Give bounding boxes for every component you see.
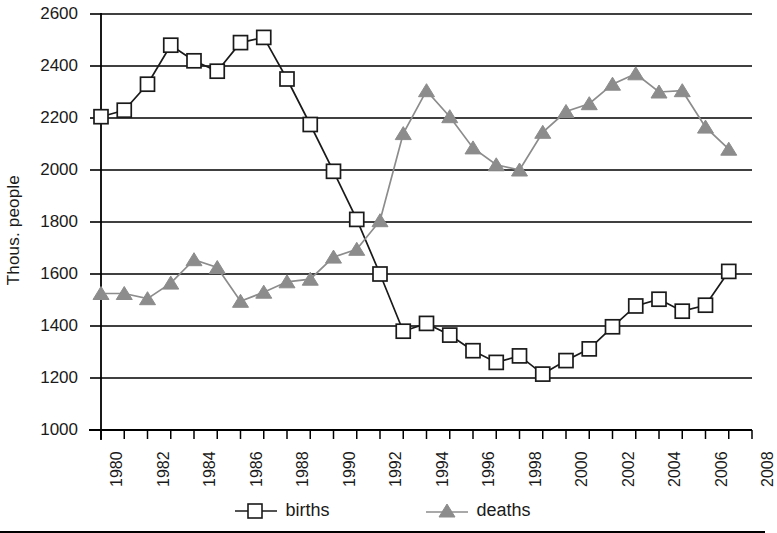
data-point-births — [675, 304, 689, 318]
data-point-births — [187, 54, 201, 68]
data-point-births — [443, 328, 457, 342]
legend-item-births[interactable]: births — [234, 500, 329, 521]
legend-label-births: births — [285, 500, 329, 521]
data-point-births — [722, 264, 736, 278]
data-point-births — [420, 316, 434, 330]
births-legend-marker-icon — [234, 502, 278, 520]
data-point-deaths — [465, 141, 481, 154]
data-point-deaths — [326, 250, 342, 263]
data-point-deaths — [558, 105, 574, 118]
data-point-births — [350, 212, 364, 226]
data-point-deaths — [395, 127, 411, 140]
data-point-births — [210, 64, 224, 78]
data-point-births — [513, 349, 527, 363]
data-point-births — [141, 77, 155, 91]
legend-item-deaths[interactable]: deaths — [425, 500, 530, 521]
data-point-births — [280, 72, 294, 86]
data-point-births — [373, 267, 387, 281]
data-point-births — [303, 118, 317, 132]
data-point-births — [94, 110, 108, 124]
data-point-births — [582, 342, 596, 356]
data-point-births — [234, 36, 248, 50]
chart-legend: births deaths — [0, 500, 765, 521]
data-point-births — [117, 103, 131, 117]
data-point-deaths — [186, 253, 202, 266]
data-point-deaths — [256, 285, 272, 298]
series-line-births — [101, 37, 729, 374]
data-point-births — [652, 292, 666, 306]
data-point-births — [396, 324, 410, 338]
data-point-births — [536, 367, 550, 381]
data-point-deaths — [419, 84, 435, 97]
data-point-births — [559, 354, 573, 368]
data-point-deaths — [209, 261, 225, 274]
legend-label-deaths: deaths — [476, 500, 530, 521]
deaths-legend-marker-icon — [425, 502, 469, 520]
data-point-deaths — [233, 294, 249, 307]
data-point-births — [699, 298, 713, 312]
series-line-deaths — [101, 74, 729, 301]
data-point-deaths — [605, 77, 621, 90]
data-point-deaths — [349, 242, 365, 255]
data-point-births — [257, 30, 271, 44]
data-point-deaths — [628, 67, 644, 80]
data-point-births — [466, 344, 480, 358]
data-point-births — [629, 299, 643, 313]
data-point-births — [164, 38, 178, 52]
data-point-deaths — [372, 214, 388, 227]
data-point-births — [327, 164, 341, 178]
data-point-deaths — [698, 120, 714, 133]
data-point-births — [489, 355, 503, 369]
data-point-births — [606, 320, 620, 334]
